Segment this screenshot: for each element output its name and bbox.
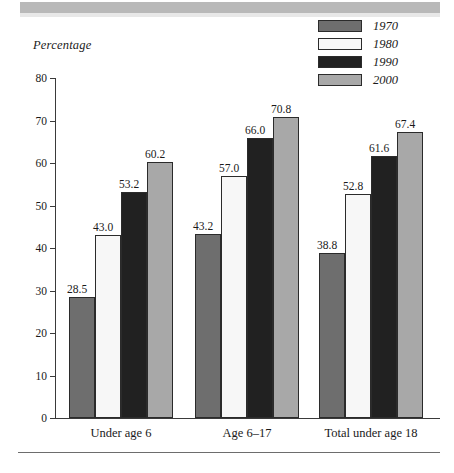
y-tick-mark [50,163,56,164]
y-tick-label: 20 [36,327,48,339]
y-tick-label: 50 [36,200,48,212]
legend-item: 1980 [318,36,398,52]
bar [319,253,345,418]
y-tick-mark [50,418,56,419]
x-category-label: Total under age 18 [324,426,417,441]
legend-label: 1980 [373,38,398,51]
y-tick-mark [50,376,56,377]
y-tick-label: 80 [36,72,48,84]
bar-value-label: 57.0 [219,162,239,174]
bar [69,297,95,418]
legend-item: 1990 [318,54,398,70]
top-scan-band [20,2,440,13]
bar [221,176,247,418]
chart-plot-area: 01020304050607080 28.543.053.260.243.257… [55,78,440,418]
x-category-label: Age 6–17 [223,426,272,441]
bar [247,138,273,419]
bar [147,162,173,418]
legend-label: 1990 [373,56,398,69]
bottom-rule [18,452,440,453]
legend-swatch-icon [318,38,362,50]
bar-value-label: 43.0 [93,221,113,233]
y-tick-label: 70 [36,115,48,127]
bar [371,156,397,418]
bar-value-label: 38.8 [317,239,337,251]
page-title: Percentage [33,38,91,53]
y-tick-label: 60 [36,157,48,169]
bar-value-label: 60.2 [145,148,165,160]
bar [95,235,121,418]
bar-value-label: 28.5 [67,283,87,295]
bar [121,192,147,418]
legend-swatch-icon [318,20,362,32]
y-tick-mark [50,291,56,292]
bar-value-label: 61.6 [369,142,389,154]
y-tick-mark [50,248,56,249]
y-tick-mark [50,121,56,122]
bar-value-label: 70.8 [271,103,291,115]
y-tick-label: 0 [41,412,47,424]
y-tick-label: 30 [36,285,48,297]
bar [195,234,221,418]
bar-value-label: 53.2 [119,178,139,190]
legend-swatch-icon [318,56,362,68]
bar [273,117,299,418]
top-scan-band-shadow [20,13,440,17]
bar-value-label: 66.0 [245,124,265,136]
bar [397,132,423,418]
legend-label: 1970 [373,20,398,33]
y-tick-label: 10 [36,370,48,382]
y-tick-mark [50,78,56,79]
x-axis-line [55,418,440,419]
y-tick-label: 40 [36,242,48,254]
y-tick-mark [50,333,56,334]
bar-value-label: 52.8 [343,180,363,192]
legend-item: 1970 [318,18,398,34]
x-category-label: Under age 6 [90,426,151,441]
bar [345,194,371,418]
y-tick-mark [50,206,56,207]
bar-value-label: 67.4 [395,118,415,130]
bar-value-label: 43.2 [193,220,213,232]
